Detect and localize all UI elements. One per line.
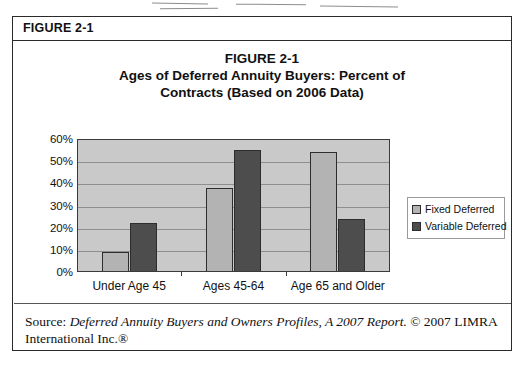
legend-item-label: Variable Deferred bbox=[425, 220, 507, 232]
bar-variable-deferred-2[interactable] bbox=[338, 219, 365, 272]
x-axis-tick-mark bbox=[181, 272, 182, 276]
bar-fixed-deferred-2[interactable] bbox=[310, 152, 337, 272]
x-axis: Under Age 45Ages 45-64Age 65 and Older bbox=[65, 279, 405, 299]
chart-title: FIGURE 2-1 Ages of Deferred Annuity Buye… bbox=[13, 51, 511, 101]
source-prefix: Source: bbox=[25, 314, 70, 329]
y-axis-tick-label: 0% bbox=[25, 266, 73, 278]
y-axis-tick-label: 60% bbox=[25, 133, 73, 145]
scan-artifacts bbox=[0, 0, 528, 14]
bars-layer bbox=[77, 139, 390, 272]
chart-title-line-1: FIGURE 2-1 bbox=[13, 51, 511, 67]
source-title: Deferred Annuity Buyers and Owners Profi… bbox=[70, 314, 407, 329]
y-axis-tick-label: 20% bbox=[25, 222, 73, 234]
source-note: Source: Deferred Annuity Buyers and Owne… bbox=[25, 313, 503, 347]
bar-variable-deferred-0[interactable] bbox=[130, 223, 157, 272]
bar-fixed-deferred-0[interactable] bbox=[102, 252, 129, 272]
figure-container: FIGURE 2-1 FIGURE 2-1 Ages of Deferred A… bbox=[12, 16, 512, 351]
legend-item-label: Fixed Deferred bbox=[425, 203, 494, 215]
x-axis-tick-label: Ages 45-64 bbox=[179, 279, 289, 293]
x-axis-tick-label: Under Age 45 bbox=[74, 279, 184, 293]
x-axis-line bbox=[77, 271, 390, 272]
y-axis: 60%50%40%30%20%10%0% bbox=[25, 133, 73, 278]
figure-header-label: FIGURE 2-1 bbox=[23, 21, 94, 35]
y-axis-tick-label: 30% bbox=[25, 200, 73, 212]
x-axis-tick-label: Age 65 and Older bbox=[283, 279, 393, 293]
scan-streak bbox=[152, 2, 208, 5]
scan-streak bbox=[160, 8, 218, 10]
y-axis-tick-label: 50% bbox=[25, 155, 73, 167]
source-divider bbox=[14, 303, 511, 304]
chart-title-line-3: Contracts (Based on 2006 Data) bbox=[13, 84, 511, 101]
y-axis-tick-label: 10% bbox=[25, 244, 73, 256]
bar-fixed-deferred-1[interactable] bbox=[206, 188, 233, 272]
chart-legend: Fixed DeferredVariable Deferred bbox=[407, 197, 505, 239]
chart-title-line-2: Ages of Deferred Annuity Buyers: Percent… bbox=[13, 67, 511, 84]
y-axis-tick-label: 40% bbox=[25, 177, 73, 189]
figure-header: FIGURE 2-1 bbox=[13, 17, 511, 41]
bar-variable-deferred-1[interactable] bbox=[234, 150, 261, 272]
x-axis-tick-mark bbox=[286, 272, 287, 276]
scan-streak bbox=[320, 6, 398, 8]
scan-streak bbox=[236, 4, 306, 6]
legend-swatch-icon bbox=[412, 205, 421, 214]
legend-swatch-icon bbox=[412, 222, 421, 231]
